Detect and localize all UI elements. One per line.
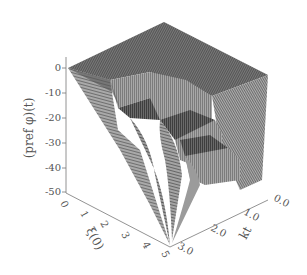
y-tick-2: 2.0 xyxy=(209,222,228,239)
y-tick-0: 0.0 xyxy=(272,192,291,209)
x-tick-0: 0 xyxy=(58,199,71,210)
z-axis-label: (pref φ)(t) xyxy=(22,98,36,159)
z-tick-0: 0 xyxy=(55,62,61,73)
x-tick-1: 1 xyxy=(78,209,91,220)
surface-plot: 0 -10 -20 -30 -40 -50 (pref φ)(t) 0 1 2 … xyxy=(0,0,307,275)
z-tick-2: -20 xyxy=(45,112,61,123)
z-tick-3: -30 xyxy=(45,137,61,148)
z-tick-5: -50 xyxy=(45,186,61,197)
x-tick-2: 2 xyxy=(98,219,111,230)
x-tick-4: 4 xyxy=(140,240,153,251)
z-tick-4: -40 xyxy=(45,162,61,173)
x-axis-label: ξ(0) xyxy=(83,225,106,252)
y-tick-3: 3.0 xyxy=(176,240,195,257)
y-tick-1: 1.0 xyxy=(242,206,261,223)
y-axis-label: kt xyxy=(236,224,254,241)
z-axis: 0 -10 -20 -30 -40 -50 (pref φ)(t) xyxy=(22,57,66,197)
surface xyxy=(68,22,268,245)
x-tick-5: 5 xyxy=(159,249,172,260)
x-tick-3: 3 xyxy=(119,230,132,241)
z-tick-1: -10 xyxy=(45,87,61,98)
